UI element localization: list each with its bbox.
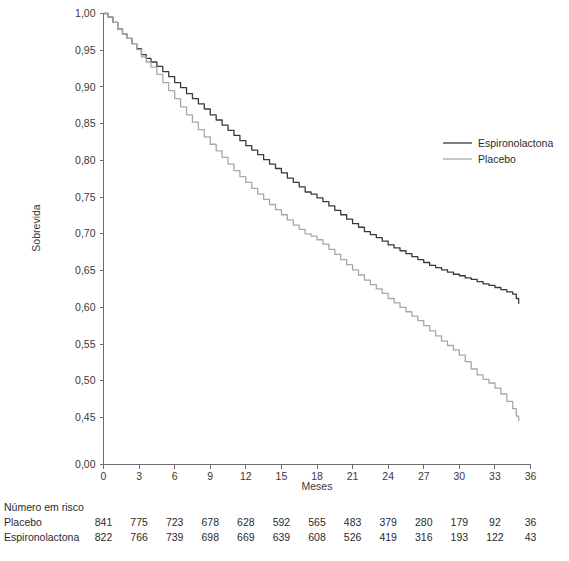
y-tick-label: 0,45 bbox=[75, 411, 96, 423]
chart-legend: EspironolactonaPlacebo bbox=[443, 137, 553, 165]
risk-value: 628 bbox=[237, 516, 255, 528]
legend-label-0: Espironolactona bbox=[478, 137, 553, 149]
risk-value: 669 bbox=[237, 531, 255, 543]
risk-value: 483 bbox=[344, 516, 362, 528]
x-tick-label: 33 bbox=[489, 470, 501, 482]
legend-label-1: Placebo bbox=[478, 153, 516, 165]
x-tick-label: 9 bbox=[207, 470, 213, 482]
survival-chart-figure: 1,000,950,900,850,800,750,700,650,600,55… bbox=[0, 0, 569, 561]
x-axis-ticks: 0369121518212427303336 bbox=[101, 465, 537, 482]
y-tick-label: 0,60 bbox=[75, 301, 96, 313]
y-tick-label: 0,75 bbox=[75, 191, 96, 203]
risk-row-label: Placebo bbox=[4, 516, 42, 528]
risk-value: 419 bbox=[379, 531, 397, 543]
risk-value: 526 bbox=[344, 531, 362, 543]
y-tick-label: 1,00 bbox=[75, 7, 96, 19]
risk-value: 122 bbox=[486, 531, 504, 543]
risk-value: 280 bbox=[415, 516, 433, 528]
risk-table-rows: Placebo841775723678628592565483379280179… bbox=[4, 516, 536, 543]
y-tick-label: 0,90 bbox=[75, 81, 96, 93]
x-tick-label: 21 bbox=[347, 470, 359, 482]
y-axis-title: Sobrevida bbox=[30, 204, 42, 251]
x-tick-label: 36 bbox=[525, 470, 537, 482]
risk-value: 316 bbox=[415, 531, 433, 543]
kaplan-meier-plot: 1,000,950,900,850,800,750,700,650,600,55… bbox=[0, 0, 569, 561]
risk-value: 179 bbox=[451, 516, 469, 528]
risk-value: 36 bbox=[525, 516, 537, 528]
x-tick-label: 6 bbox=[172, 470, 178, 482]
survival-curve-placebo bbox=[104, 14, 519, 422]
y-tick-label: 0,00 bbox=[75, 458, 96, 470]
y-tick-label: 0,95 bbox=[75, 44, 96, 56]
risk-value: 822 bbox=[95, 531, 113, 543]
y-tick-label: 0,50 bbox=[75, 374, 96, 386]
x-tick-label: 3 bbox=[136, 470, 142, 482]
risk-value: 723 bbox=[166, 516, 184, 528]
risk-value: 565 bbox=[308, 516, 326, 528]
risk-table: Número em risco Placebo84177572367862859… bbox=[4, 501, 536, 543]
x-tick-label: 12 bbox=[240, 470, 252, 482]
x-tick-label: 27 bbox=[418, 470, 430, 482]
x-tick-label: 24 bbox=[382, 470, 394, 482]
risk-value: 739 bbox=[166, 531, 184, 543]
x-axis-title: Meses bbox=[302, 480, 333, 492]
risk-value: 43 bbox=[525, 531, 537, 543]
risk-value: 592 bbox=[273, 516, 291, 528]
x-tick-label: 15 bbox=[276, 470, 288, 482]
risk-value: 639 bbox=[273, 531, 291, 543]
risk-value: 698 bbox=[201, 531, 219, 543]
y-tick-label: 0,80 bbox=[75, 154, 96, 166]
x-tick-label: 0 bbox=[101, 470, 107, 482]
y-tick-label: 0,85 bbox=[75, 117, 96, 129]
survival-curves bbox=[104, 14, 519, 422]
risk-value: 608 bbox=[308, 531, 326, 543]
risk-value: 678 bbox=[201, 516, 219, 528]
risk-row-label: Espironolactona bbox=[4, 531, 79, 543]
y-tick-label: 0,65 bbox=[75, 264, 96, 276]
risk-value: 193 bbox=[451, 531, 469, 543]
y-tick-label: 0,55 bbox=[75, 338, 96, 350]
y-tick-label: 0,70 bbox=[75, 227, 96, 239]
risk-value: 379 bbox=[379, 516, 397, 528]
risk-value: 766 bbox=[130, 531, 148, 543]
risk-value: 775 bbox=[130, 516, 148, 528]
risk-value: 92 bbox=[489, 516, 501, 528]
risk-value: 841 bbox=[95, 516, 113, 528]
x-tick-label: 30 bbox=[453, 470, 465, 482]
risk-table-title: Número em risco bbox=[4, 501, 84, 513]
y-axis-ticks: 1,000,950,900,850,800,750,700,650,600,55… bbox=[75, 7, 103, 470]
